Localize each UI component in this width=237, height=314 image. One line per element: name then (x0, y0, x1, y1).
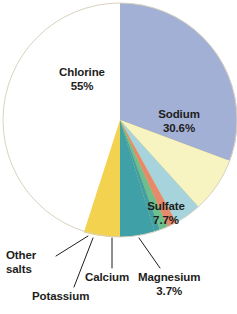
slice-label-chlorine-name: Chlorine (59, 66, 105, 78)
slice-label-chlorine-value: 55% (38, 80, 126, 94)
callout-label-other-salts-line2: salts (6, 263, 52, 277)
callout-label-other-salts-line1: Other (6, 249, 36, 261)
slice-label-sodium: Sodium 30.6% (141, 108, 217, 135)
callout-label-magnesium-value: 3.7% (138, 285, 200, 299)
pie-chart: Chlorine 55% Sodium 30.6% Sulfate 7.7% O… (0, 0, 237, 314)
slice-label-sulfate-value: 7.7% (131, 214, 201, 228)
leader-line-other-salts (56, 236, 88, 256)
slice-label-sodium-value: 30.6% (141, 122, 217, 136)
slice-label-chlorine: Chlorine 55% (38, 66, 126, 93)
callout-label-calcium: Calcium (85, 271, 129, 285)
slice-label-sulfate-name: Sulfate (147, 200, 185, 212)
slice-label-sodium-name: Sodium (158, 108, 200, 120)
callout-label-magnesium: Magnesium 3.7% (138, 271, 200, 298)
callout-label-other-salts: Other salts (6, 249, 52, 276)
slice-label-sulfate: Sulfate 7.7% (131, 200, 201, 227)
callout-label-potassium: Potassium (32, 290, 89, 304)
leader-line-magnesium (139, 238, 160, 268)
callout-label-magnesium-name: Magnesium (138, 271, 200, 283)
